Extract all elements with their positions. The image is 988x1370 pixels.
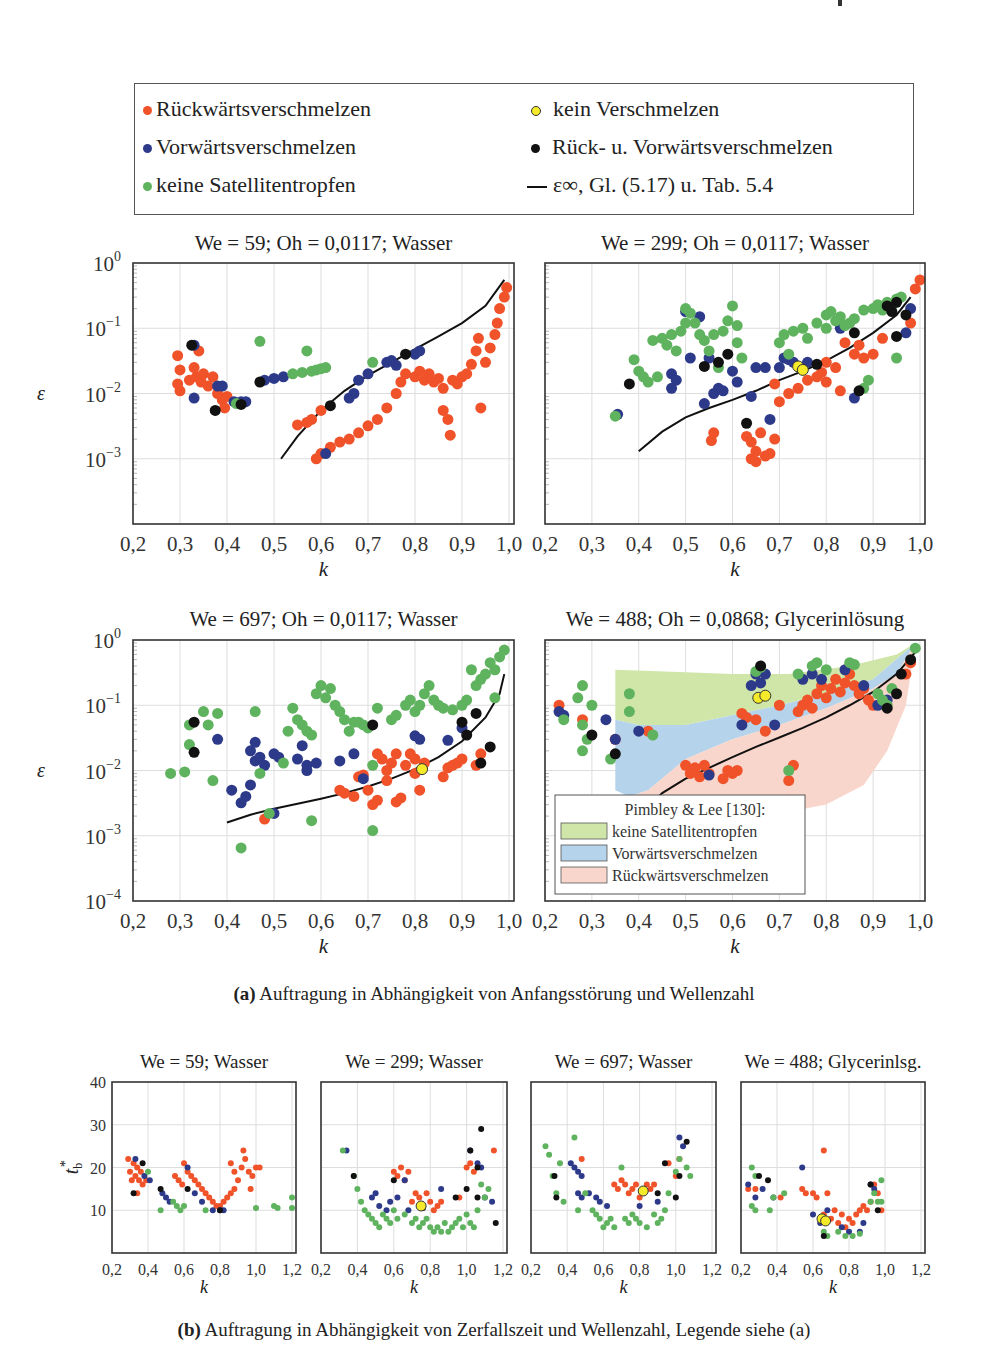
x-tick-label: 0,5 [261, 909, 287, 933]
y-tick-label: 10−2 [85, 757, 121, 784]
data-point [239, 1165, 245, 1171]
data-point [376, 1224, 382, 1230]
data-point [467, 1160, 473, 1166]
x-tick-label: 0,8 [630, 1261, 650, 1278]
data-point [840, 337, 851, 348]
data-point [615, 1186, 621, 1192]
data-point [900, 309, 911, 320]
data-point [198, 368, 209, 379]
x-tick-label: 0,8 [402, 909, 428, 933]
y-tick-label: 30 [90, 1117, 106, 1134]
data-point [877, 333, 888, 344]
chart-b2: We = 299; Wasser0,20,40,60,81,01,2k [311, 1051, 513, 1297]
data-point [301, 765, 312, 776]
x-tick-label: 0,6 [174, 1261, 194, 1278]
data-point [882, 703, 893, 714]
data-point [684, 1139, 690, 1145]
data-point [292, 754, 303, 765]
data-point [732, 320, 743, 331]
data-point [445, 430, 456, 441]
data-point [438, 703, 449, 714]
x-tick-label: 0,6 [384, 1261, 404, 1278]
data-point [891, 331, 902, 342]
data-point [402, 1212, 408, 1218]
data-point [249, 1173, 255, 1179]
data-point [755, 660, 766, 671]
data-point [769, 378, 780, 389]
chart-title: We = 299; Wasser [345, 1051, 483, 1072]
x-tick-label: 0,7 [355, 909, 381, 933]
data-point [325, 400, 336, 411]
x-tick-label: 1,0 [907, 532, 933, 556]
data-point [760, 726, 771, 737]
legend-swatch [561, 845, 607, 861]
x-tick-label: 0,4 [626, 909, 653, 933]
x-tick-label: 0,2 [102, 1261, 122, 1278]
data-point [774, 362, 785, 373]
data-point [750, 456, 761, 467]
data-point [704, 770, 715, 781]
data-point [694, 771, 705, 782]
data-point [770, 1194, 776, 1200]
epsilon-infinity-curve [639, 297, 911, 451]
data-point [405, 695, 416, 706]
data-point [212, 734, 223, 745]
data-point [661, 340, 672, 351]
data-point [629, 354, 640, 365]
data-point [582, 1190, 588, 1196]
data-point [391, 360, 402, 371]
data-point [760, 362, 771, 373]
x-tick-label: 0,6 [719, 532, 745, 556]
data-point [372, 703, 383, 714]
data-point [189, 362, 200, 373]
data-point [863, 375, 874, 386]
data-point [172, 350, 183, 361]
data-point [461, 729, 472, 740]
data-point [561, 1199, 567, 1205]
y-tick-label: 100 [93, 249, 121, 276]
x-tick-label: 0,2 [120, 532, 146, 556]
data-point [442, 1220, 448, 1226]
data-point [611, 1224, 617, 1230]
x-tick-label: 0,9 [860, 532, 886, 556]
data-point [253, 1205, 259, 1211]
data-point [850, 1220, 856, 1226]
data-point [765, 414, 776, 425]
data-point [868, 1199, 874, 1205]
legend-label: Rückwärtsverschmelzen [612, 867, 768, 884]
data-point [464, 1212, 470, 1218]
data-point [363, 368, 374, 379]
pimbley-lee-legend: Pimbley & Lee [130]:keine Satellitentrop… [555, 795, 805, 894]
data-point [830, 362, 841, 373]
data-point [821, 1147, 827, 1153]
data-point [718, 385, 729, 396]
data-point [351, 1173, 357, 1179]
data-point [832, 1207, 838, 1213]
data-point [475, 402, 486, 413]
data-point [807, 703, 818, 714]
data-point [453, 1194, 459, 1200]
data-point [410, 754, 421, 765]
data-point [579, 1156, 585, 1162]
data-point [186, 340, 197, 351]
x-tick-label: 1,2 [911, 1261, 931, 1278]
data-point [850, 1233, 856, 1239]
data-point [489, 664, 500, 675]
x-tick-label: 0,6 [593, 1261, 613, 1278]
x-tick-label: 1,0 [496, 532, 522, 556]
data-point [165, 768, 176, 779]
data-point [471, 1224, 477, 1230]
x-tick-label: 0,5 [673, 532, 699, 556]
x-tick-label: 0,5 [261, 532, 287, 556]
data-point [466, 359, 477, 370]
data-point [708, 329, 719, 340]
data-point [830, 674, 841, 685]
data-point [690, 318, 701, 329]
data-point [821, 377, 832, 388]
series-kein-verschmelzen [638, 1186, 648, 1196]
data-point [316, 405, 327, 416]
chart-title: We = 59; Wasser [140, 1051, 269, 1072]
data-point [842, 1233, 848, 1239]
data-point [245, 779, 256, 790]
data-point [189, 393, 200, 404]
